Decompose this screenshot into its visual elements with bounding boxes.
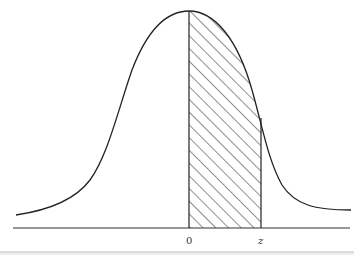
shaded-area — [189, 11, 351, 228]
bell-curve — [16, 11, 351, 215]
normal-distribution-diagram: 0 z — [0, 0, 359, 261]
origin-label: 0 — [186, 235, 192, 246]
z-label: z — [257, 235, 264, 246]
